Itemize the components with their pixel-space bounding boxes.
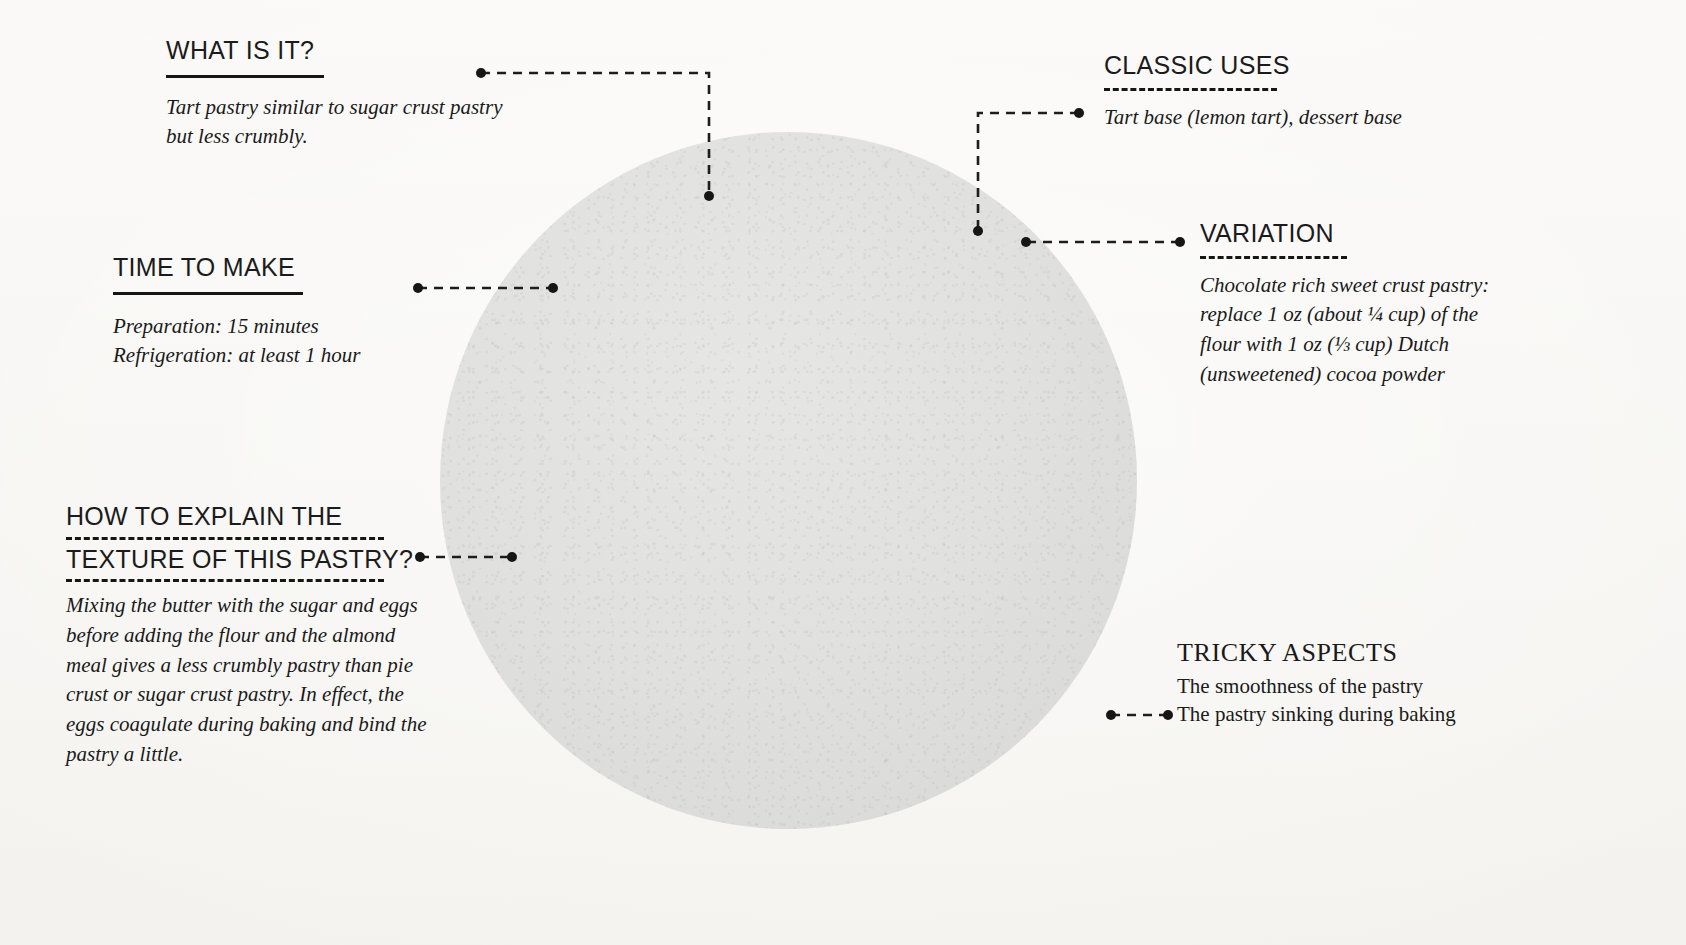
note-what-is-it-rule — [166, 75, 324, 78]
leader-dot-variation-start — [1175, 237, 1185, 247]
note-variation-body: Chocolate rich sweet crust pastry: repla… — [1200, 271, 1510, 390]
note-what-is-it-body: Tart pastry similar to sugar crust pastr… — [166, 93, 506, 153]
note-classic-uses: CLASSIC USES Tart base (lemon tart), des… — [1104, 51, 1504, 132]
note-variation-heading: VARIATION — [1200, 219, 1510, 249]
note-classic-uses-heading: CLASSIC USES — [1104, 51, 1504, 81]
note-how-to-explain-heading-line-1: HOW TO EXPLAIN THE — [66, 502, 384, 540]
note-tricky-aspects: TRICKY ASPECTS The smoothness of the pas… — [1177, 638, 1507, 728]
note-how-to-explain: HOW TO EXPLAIN THE TEXTURE OF THIS PASTR… — [66, 502, 431, 770]
note-classic-uses-rule — [1104, 88, 1277, 91]
note-tricky-aspects-body-line-1: The smoothness of the pastry — [1177, 672, 1507, 700]
note-time-to-make-rule — [113, 292, 303, 295]
note-variation: VARIATION Chocolate rich sweet crust pas… — [1200, 219, 1510, 390]
leader-dot-tricky-aspects-end — [1106, 710, 1116, 720]
note-tricky-aspects-heading: TRICKY ASPECTS — [1177, 638, 1507, 668]
note-tricky-aspects-body-line-2: The pastry sinking during baking — [1177, 700, 1507, 728]
leader-dot-tricky-aspects-start — [1163, 710, 1173, 720]
note-how-to-explain-body: Mixing the butter with the sugar and egg… — [66, 591, 431, 770]
infographic-page: WHAT IS IT? Tart pastry similar to sugar… — [0, 0, 1686, 945]
pastry-speckle-texture — [440, 132, 1137, 829]
note-time-to-make-heading: TIME TO MAKE — [113, 253, 453, 283]
note-time-to-make: TIME TO MAKE Preparation: 15 minutes Ref… — [113, 253, 453, 371]
note-time-to-make-body-line-1: Preparation: 15 minutes — [113, 312, 453, 342]
note-tricky-aspects-body: The smoothness of the pastry The pastry … — [1177, 672, 1507, 728]
note-what-is-it: WHAT IS IT? Tart pastry similar to sugar… — [166, 36, 506, 152]
note-classic-uses-body: Tart base (lemon tart), dessert base — [1104, 103, 1504, 133]
leader-dot-classic-uses-start — [1074, 108, 1084, 118]
pastry-dough-circle — [440, 132, 1137, 829]
note-time-to-make-body: Preparation: 15 minutes Refrigeration: a… — [113, 312, 453, 372]
note-time-to-make-body-line-2: Refrigeration: at least 1 hour — [113, 341, 453, 371]
note-variation-rule — [1200, 256, 1347, 259]
note-how-to-explain-heading-line-2: TEXTURE OF THIS PASTRY? — [66, 540, 384, 583]
note-what-is-it-heading: WHAT IS IT? — [166, 36, 506, 66]
